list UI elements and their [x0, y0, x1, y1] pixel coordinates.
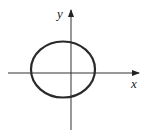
y-axis-label: y: [55, 6, 63, 21]
x-axis-label: x: [130, 76, 137, 91]
ellipse-curve: [31, 42, 95, 98]
coordinate-diagram: y x: [0, 0, 145, 132]
